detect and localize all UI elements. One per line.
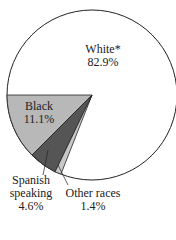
label-white: White* 82.9% (78, 43, 128, 69)
label-spanish: Spanish speaking 4.6% (5, 174, 57, 211)
label-other: Other races 1.4% (60, 187, 126, 211)
label-black: Black 11.1% (19, 100, 59, 126)
